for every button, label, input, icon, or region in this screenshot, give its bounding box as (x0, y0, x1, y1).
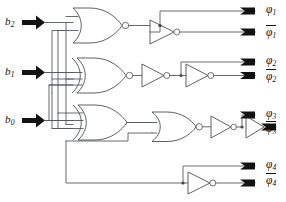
gate-nor-1 (73, 8, 129, 43)
output-label-phi4: φ4 (266, 159, 276, 172)
input-label-b2: b2 (5, 16, 15, 29)
gate-xor-3 (73, 105, 127, 140)
output-label-phi3-bar-sub: 3 (273, 127, 277, 136)
output-label-phi3-bar-text: φ (266, 122, 272, 134)
junction-row1 (158, 24, 161, 27)
gate-xnor-2 (72, 58, 133, 93)
input-label-b0-text: b (5, 113, 11, 125)
output-label-phi1-bar-sub: 1 (273, 31, 277, 40)
gate-nor-4 (152, 112, 202, 142)
circuit-diagram-root: b2 b1 b0 φ1 φ1 φ2 φ2 φ3 φ3 φ4 φ4 (0, 0, 286, 202)
output-label-phi1-bar: φ1 (266, 25, 276, 39)
output-label-phi3: φ3 (266, 108, 276, 121)
output-label-phi2-bar-sub: 2 (273, 75, 277, 84)
output-label-phi3-sub: 3 (273, 112, 277, 121)
output-label-phi1-sub: 1 (273, 8, 277, 17)
output-label-phi2-bar: φ2 (266, 69, 276, 83)
bus-lower-b2 (66, 141, 183, 183)
input-label-b2-text: b (5, 15, 11, 27)
output-label-phi4-bar-sub: 4 (273, 179, 277, 188)
input-pin-b2 (22, 16, 45, 30)
bus-b0-vertical (49, 85, 73, 121)
output-label-phi4-sub: 4 (273, 163, 277, 172)
output-label-phi2-sub: 2 (273, 59, 277, 68)
input-label-b1-sub: 1 (11, 70, 15, 79)
output-label-phi3-text: φ (266, 107, 272, 119)
input-pin-b0 (22, 114, 45, 128)
output-label-phi1-text: φ (266, 3, 272, 15)
inverter-4 (211, 116, 236, 138)
output-label-phi2-text: φ (266, 54, 272, 66)
output-label-phi1-bar-text: φ (266, 26, 272, 38)
output-label-phi2: φ2 (266, 55, 276, 68)
output-label-phi4-bar-text: φ (266, 174, 272, 186)
input-label-b1-text: b (5, 65, 11, 77)
output-label-phi4-text: φ (266, 158, 272, 170)
input-label-b1: b1 (5, 66, 15, 79)
input-label-b0: b0 (5, 114, 15, 127)
output-label-phi2-bar-text: φ (266, 70, 272, 82)
circuit-canvas (0, 0, 286, 202)
bus-b2-branch-2 (52, 93, 73, 129)
inverter-2 (142, 64, 170, 87)
bus-b2-branch (52, 31, 66, 94)
output-label-phi1: φ1 (266, 4, 276, 17)
inverter-3 (186, 64, 214, 87)
input-pin-b1 (22, 66, 45, 80)
output-label-phi3-bar: φ3 (266, 121, 276, 135)
wire-phi1-direct (160, 11, 255, 26)
output-label-phi4-bar: φ4 (266, 173, 276, 187)
input-label-b0-sub: 0 (11, 118, 15, 127)
input-label-b2-sub: 2 (11, 20, 15, 29)
inverter-6 (188, 172, 216, 194)
